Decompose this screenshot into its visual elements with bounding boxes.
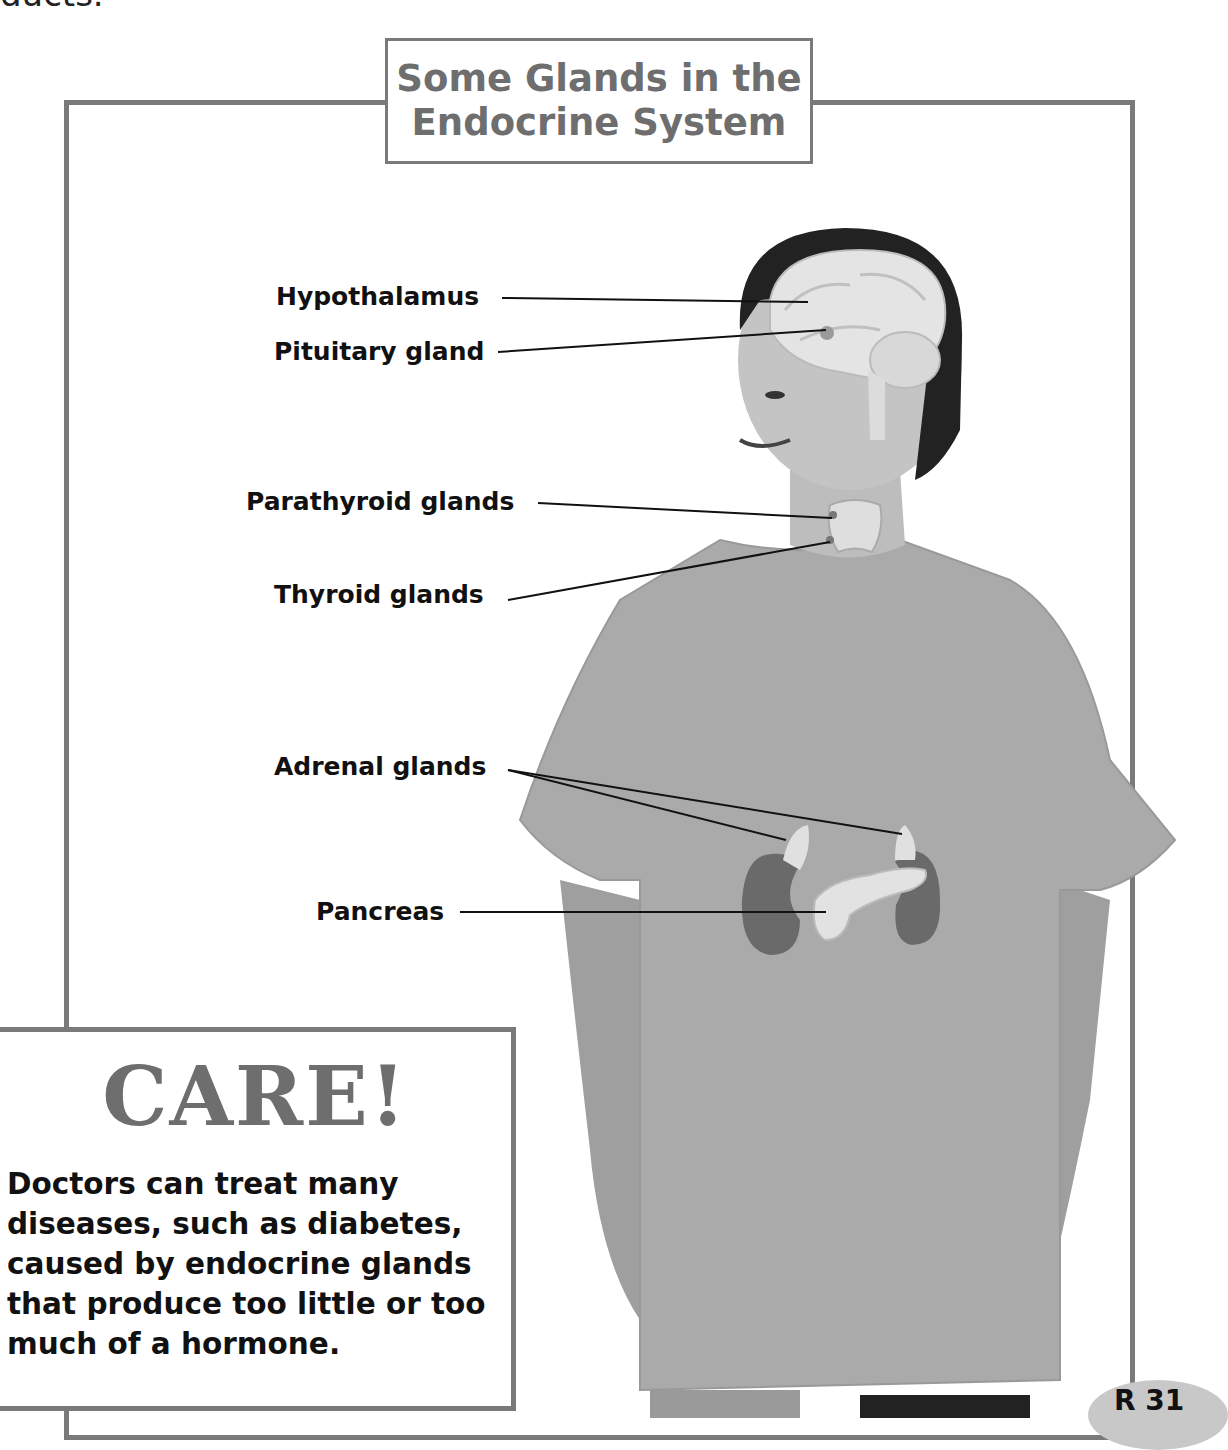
label-thyroid-glands: Thyroid glands — [274, 580, 484, 609]
label-pancreas: Pancreas — [316, 897, 444, 926]
label-adrenal-glands: Adrenal glands — [274, 752, 486, 781]
parathyroid-leader-line — [538, 503, 832, 518]
diagram-title-line-2: Endocrine System — [412, 101, 787, 145]
eye-shape — [765, 391, 785, 399]
thyroid-icon — [829, 500, 882, 552]
page-number: R 31 — [1114, 1384, 1184, 1417]
diagram-title-line-1: Some Glands in the — [396, 57, 801, 101]
pituitary-icon — [820, 326, 834, 340]
left-kidney-icon — [742, 854, 800, 955]
care-title: CARE! — [0, 1048, 511, 1144]
shoe-shape — [860, 1395, 1030, 1418]
page-number-badge: R 31 — [1088, 1380, 1228, 1450]
brainstem-icon — [868, 370, 885, 440]
label-hypothalamus: Hypothalamus — [276, 282, 479, 311]
diagram-title-box: Some Glands in the Endocrine System — [385, 38, 813, 164]
care-body-text: Doctors can treat many diseases, such as… — [7, 1164, 507, 1364]
care-callout-box: CARE! Doctors can treat many diseases, s… — [0, 1027, 516, 1411]
shorts-shape — [650, 1390, 800, 1418]
label-parathyroid-glands: Parathyroid glands — [246, 487, 514, 516]
label-pituitary-gland: Pituitary gland — [274, 337, 484, 366]
